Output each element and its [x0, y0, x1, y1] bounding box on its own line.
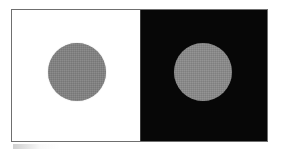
black-background-panel [140, 10, 267, 141]
contrast-figure [11, 9, 268, 142]
gray-disk-on-white [48, 43, 106, 101]
scan-smudge [13, 144, 59, 149]
page-margin-right [268, 0, 281, 151]
gray-disk-on-black [174, 43, 232, 101]
white-background-panel [12, 10, 140, 141]
figure-root: Two identical gray disks shown on a whit… [0, 0, 281, 151]
